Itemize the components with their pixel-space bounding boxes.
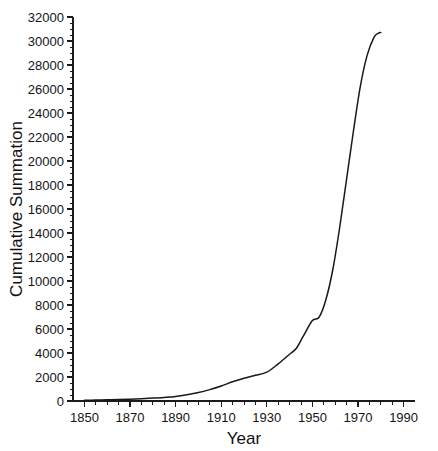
y-axis-major-ticks (67, 17, 73, 401)
x-tick-label: 1990 (389, 410, 418, 425)
y-tick-label: 20000 (28, 154, 64, 169)
x-tick-label: 1870 (116, 410, 145, 425)
x-tick-label: 1850 (70, 410, 99, 425)
x-tick-label: 1890 (161, 410, 190, 425)
cumulative-summation-line (84, 33, 380, 401)
y-tick-label: 0 (57, 394, 64, 409)
x-tick-label: 1910 (207, 410, 236, 425)
x-axis-tick-labels: 18501870189019101930195019701990 (70, 410, 418, 425)
chart-canvas: 0200040006000800010000120001400016000180… (0, 0, 438, 451)
y-tick-label: 24000 (28, 106, 64, 121)
y-tick-label: 6000 (35, 322, 64, 337)
y-axis-tick-labels: 0200040006000800010000120001400016000180… (28, 10, 64, 409)
x-tick-label: 1950 (298, 410, 327, 425)
y-tick-label: 26000 (28, 82, 64, 97)
y-tick-label: 14000 (28, 226, 64, 241)
y-tick-label: 10000 (28, 274, 64, 289)
x-tick-label: 1930 (252, 410, 281, 425)
chart-figure: 0200040006000800010000120001400016000180… (0, 0, 438, 451)
y-tick-label: 16000 (28, 202, 64, 217)
y-tick-label: 30000 (28, 34, 64, 49)
y-tick-label: 4000 (35, 346, 64, 361)
y-tick-label: 12000 (28, 250, 64, 265)
y-tick-label: 22000 (28, 130, 64, 145)
x-tick-label: 1970 (344, 410, 373, 425)
y-axis-title: Cumulative Summation (7, 121, 26, 297)
x-axis-title: Year (227, 429, 262, 448)
y-tick-label: 32000 (28, 10, 64, 25)
y-tick-label: 8000 (35, 298, 64, 313)
y-tick-label: 2000 (35, 370, 64, 385)
y-tick-label: 28000 (28, 58, 64, 73)
y-tick-label: 18000 (28, 178, 64, 193)
